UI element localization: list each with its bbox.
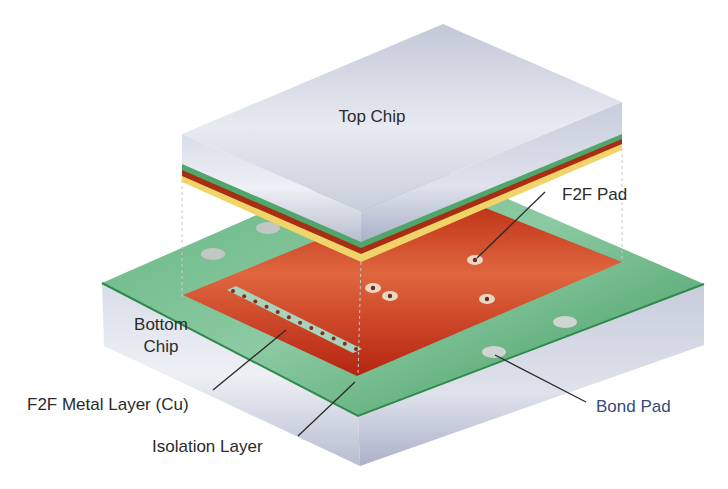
f2f-stack-diagram: Top Chip F2F Pad Bottom Chip F2F Metal L… — [0, 0, 728, 489]
strip-pad — [298, 321, 302, 325]
f2f-pad — [467, 255, 483, 265]
bottom-chip-label-line2: Chip — [144, 337, 179, 356]
isolation-layer-label: Isolation Layer — [152, 437, 263, 456]
strip-pad — [332, 336, 336, 340]
f2f-metal-layer-label: F2F Metal Layer (Cu) — [27, 395, 189, 414]
strip-pad — [265, 305, 269, 309]
strip-pad — [276, 310, 280, 314]
strip-pad — [309, 326, 313, 330]
bond-pad — [201, 248, 225, 260]
strip-pad — [354, 347, 358, 351]
bond-pad — [482, 346, 506, 358]
strip-pad — [320, 331, 324, 335]
f2f-pad-label: F2F Pad — [562, 185, 627, 204]
f2f-pad — [382, 291, 398, 301]
strip-pad — [242, 294, 246, 298]
top-chip-label: Top Chip — [338, 107, 405, 126]
f2f-pad — [479, 294, 495, 304]
bottom-chip-label-line1: Bottom — [134, 315, 188, 334]
strip-pad — [231, 289, 235, 293]
bond-pad-label: Bond Pad — [596, 397, 671, 416]
strip-pad — [253, 300, 257, 304]
bond-pad — [553, 316, 577, 328]
f2f-pad — [365, 283, 381, 293]
strip-pad — [287, 315, 291, 319]
strip-pad — [343, 342, 347, 346]
